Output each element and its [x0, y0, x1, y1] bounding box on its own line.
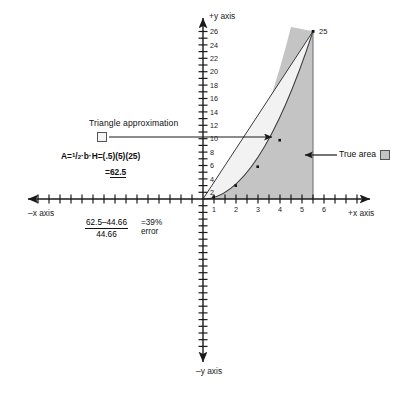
- percent-error-fraction: 62.5–44.66 44.66: [85, 218, 128, 239]
- error-percent: =39%: [141, 218, 162, 227]
- true-area-label: True area: [339, 150, 376, 160]
- y-tick-label: 16: [210, 94, 218, 103]
- error-word: error: [141, 227, 162, 236]
- formula-result-value: 62.5: [110, 167, 126, 178]
- triangle-area-result: =62.5: [105, 168, 126, 178]
- y-tick-label: 10: [210, 134, 218, 143]
- triangle-approximation-swatch: [97, 132, 107, 142]
- y-tick-label: 6: [210, 161, 214, 170]
- x-tick-label-group: 1 2 3 4 5 6: [212, 205, 326, 214]
- x-tick-label: 5: [300, 205, 304, 214]
- true-area-swatch: [380, 150, 390, 160]
- x-axis-positive-label: +x axis: [348, 208, 374, 218]
- formula-prefix: A=: [61, 151, 72, 161]
- diagram-canvas: 1 2 3 4 5 6 2 4 6 8 10 12 14 16 18 20 22…: [0, 0, 395, 394]
- y-axis-positive-label: +y axis: [209, 11, 235, 21]
- y-tick-label: 8: [210, 148, 214, 157]
- y-tick-label: 14: [210, 108, 218, 117]
- error-numerator: 62.5–44.66: [85, 218, 128, 229]
- triangle-area-formula: A=1/2·b·H=(.5)(5)(25): [61, 152, 140, 162]
- coordinate-plane-svg: 1 2 3 4 5 6 2 4 6 8 10 12 14 16 18 20 22…: [0, 0, 395, 394]
- y-axis-negative-label: –y axis: [196, 366, 222, 376]
- x-tick-label: 6: [322, 205, 326, 214]
- y-tick-label: 20: [210, 67, 218, 76]
- y-tick-label: 18: [210, 81, 218, 90]
- error-denominator: 44.66: [85, 229, 128, 239]
- x-tick-label: 1: [212, 205, 216, 214]
- y-tick-label: 22: [210, 54, 218, 63]
- percent-error-result: =39% error: [141, 218, 162, 237]
- formula-rest: ·b·H=(.5)(5)(25): [81, 151, 140, 161]
- y-tick-label: 4: [210, 175, 214, 184]
- y-tick-label: 26: [210, 27, 218, 36]
- x-tick-label: 2: [234, 205, 238, 214]
- y-tick-label: 2: [210, 188, 214, 197]
- y-tick-label-group: 2 4 6 8 10 12 14 16 18 20 22 24 26: [210, 27, 218, 197]
- y-tick-label: 24: [210, 41, 218, 50]
- x-axis-negative-label: –x axis: [28, 208, 54, 218]
- x-tick-label: 4: [278, 205, 282, 214]
- x-tick-label: 3: [256, 205, 260, 214]
- triangle-approximation-label: Triangle approximation: [89, 119, 178, 129]
- formula-half-numerator: 1: [72, 152, 75, 158]
- apex-value-label: 25: [319, 27, 327, 36]
- y-tick-label: 12: [210, 121, 218, 130]
